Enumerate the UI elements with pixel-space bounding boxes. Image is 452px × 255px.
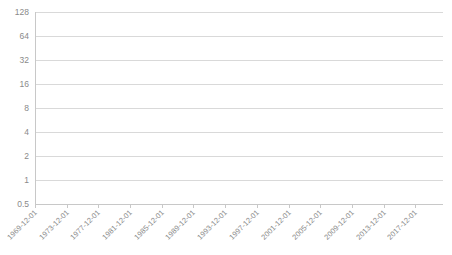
y-tick-label-4: 4: [24, 127, 29, 137]
x-tick-label-1977-12-01: 1977-12-01: [68, 208, 101, 241]
y-tick-labels-group: 12864321684210.5: [15, 7, 29, 209]
x-tick-label-2009-12-01: 2009-12-01: [322, 208, 355, 241]
y-tick-label-2: 2: [24, 151, 29, 161]
y-tick-label-64: 64: [20, 31, 30, 41]
line-chart: 12864321684210.5 1969-12-011973-12-01197…: [0, 0, 452, 255]
x-tick-label-1985-12-01: 1985-12-01: [132, 208, 165, 241]
x-tick-label-2017-12-01: 2017-12-01: [385, 208, 418, 241]
y-tick-label-0.5: 0.5: [17, 199, 29, 209]
x-tick-label-2005-12-01: 2005-12-01: [290, 208, 323, 241]
x-tick-label-2001-12-01: 2001-12-01: [259, 208, 292, 241]
x-tick-label-1989-12-01: 1989-12-01: [163, 208, 196, 241]
gridlines-group: [35, 13, 443, 205]
y-tick-label-1: 1: [24, 175, 29, 185]
x-tick-label-1969-12-01: 1969-12-01: [5, 208, 38, 241]
y-tick-label-128: 128: [15, 7, 29, 17]
x-tick-label-1973-12-01: 1973-12-01: [37, 208, 70, 241]
x-tick-labels-group: 1969-12-011973-12-011977-12-011981-12-01…: [5, 208, 418, 241]
x-tick-label-2013-12-01: 2013-12-01: [354, 208, 387, 241]
x-tick-label-1997-12-01: 1997-12-01: [227, 208, 260, 241]
x-tick-label-1981-12-01: 1981-12-01: [100, 208, 133, 241]
y-tick-label-32: 32: [20, 55, 30, 65]
chart-container: 12864321684210.5 1969-12-011973-12-01197…: [0, 0, 452, 255]
y-tick-label-16: 16: [20, 79, 30, 89]
y-tick-label-8: 8: [24, 103, 29, 113]
x-tick-label-1993-12-01: 1993-12-01: [195, 208, 228, 241]
